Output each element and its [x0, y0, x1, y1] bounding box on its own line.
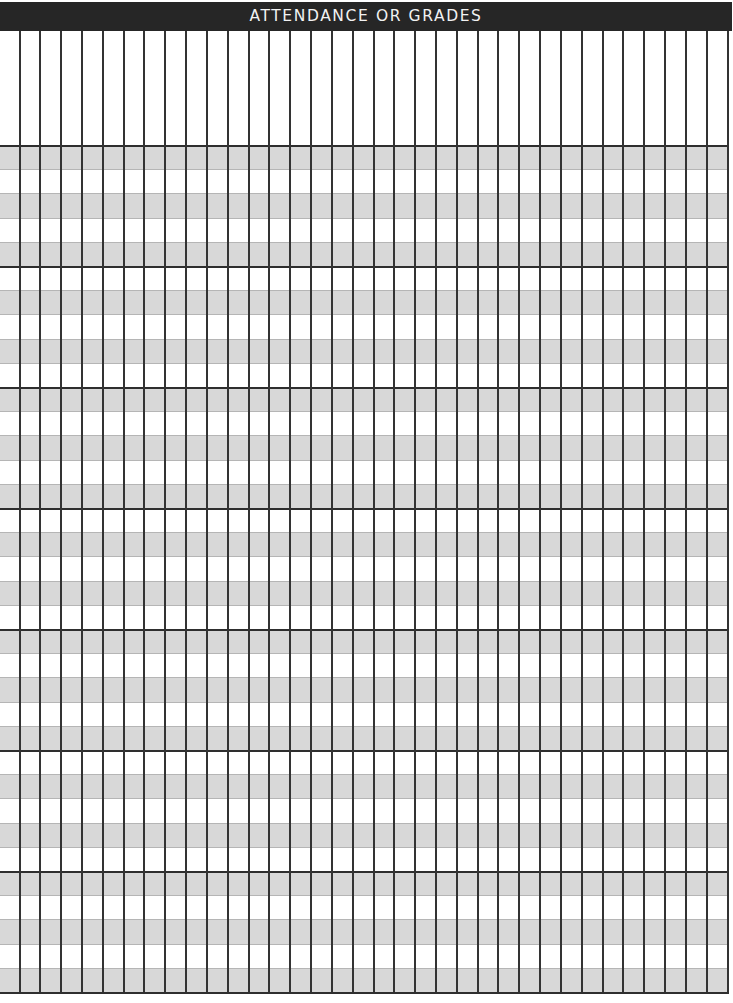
- group-divider: [0, 629, 729, 631]
- column-divider: [81, 31, 83, 992]
- grid-row: [0, 727, 729, 751]
- grid-row: [0, 775, 729, 799]
- column-divider: [164, 31, 166, 992]
- group-divider: [0, 750, 729, 752]
- grid-row: [0, 848, 729, 872]
- column-divider: [581, 31, 583, 992]
- grid-row: [0, 364, 729, 388]
- grid-row: [0, 703, 729, 727]
- grid-border: [19, 31, 21, 992]
- column-divider: [60, 31, 62, 992]
- column-divider: [352, 31, 354, 992]
- column-divider: [685, 31, 687, 992]
- column-divider: [560, 31, 562, 992]
- grid-row: [0, 654, 729, 678]
- column-divider: [123, 31, 125, 992]
- grid-row: [0, 606, 729, 630]
- column-divider: [227, 31, 229, 992]
- grid-row: [0, 436, 729, 460]
- grid-row: [0, 896, 729, 920]
- grid-row: [0, 582, 729, 606]
- grid-row: [0, 485, 729, 509]
- group-divider: [0, 871, 729, 873]
- page-title: ATTENDANCE OR GRADES: [249, 8, 482, 25]
- column-divider: [435, 31, 437, 992]
- column-divider: [102, 31, 104, 992]
- grid-row: [0, 920, 729, 944]
- column-divider: [206, 31, 208, 992]
- grid-row: [0, 969, 729, 993]
- grid-row: [0, 678, 729, 702]
- grid-row: [0, 219, 729, 243]
- grid-row: [0, 291, 729, 315]
- column-divider: [39, 31, 41, 992]
- group-divider: [0, 266, 729, 268]
- column-divider: [477, 31, 479, 992]
- grid-border: [727, 31, 729, 992]
- column-divider: [456, 31, 458, 992]
- header-bar: ATTENDANCE OR GRADES: [0, 2, 732, 31]
- grid-row: [0, 557, 729, 581]
- grid-row: [0, 315, 729, 339]
- grid-row: [0, 630, 729, 654]
- column-divider: [143, 31, 145, 992]
- grid-row: [0, 412, 729, 436]
- column-divider: [393, 31, 395, 992]
- column-divider: [664, 31, 666, 992]
- grid-row: [0, 945, 729, 969]
- column-divider: [373, 31, 375, 992]
- column-divider: [310, 31, 312, 992]
- grid-row: [0, 170, 729, 194]
- grid-row: [0, 194, 729, 218]
- column-divider: [497, 31, 499, 992]
- attendance-grid: [0, 31, 733, 993]
- column-divider: [185, 31, 187, 992]
- column-divider: [518, 31, 520, 992]
- group-divider: [0, 992, 729, 994]
- grid-row: [0, 388, 729, 412]
- column-divider: [289, 31, 291, 992]
- column-divider: [331, 31, 333, 992]
- group-divider: [0, 508, 729, 510]
- grid-row: [0, 461, 729, 485]
- column-divider: [414, 31, 416, 992]
- grid-row: [0, 267, 729, 291]
- column-divider: [268, 31, 270, 992]
- grid-row: [0, 243, 729, 267]
- grid-row: [0, 799, 729, 823]
- column-divider: [602, 31, 604, 992]
- grid-row: [0, 533, 729, 557]
- grid-row: [0, 509, 729, 533]
- column-divider: [248, 31, 250, 992]
- grid-row: [0, 824, 729, 848]
- grid-row: [0, 146, 729, 170]
- column-divider: [643, 31, 645, 992]
- column-divider: [622, 31, 624, 992]
- grid-row: [0, 751, 729, 775]
- group-divider: [0, 145, 729, 147]
- column-divider: [539, 31, 541, 992]
- group-divider: [0, 387, 729, 389]
- grid-row: [0, 340, 729, 364]
- column-divider: [706, 31, 708, 992]
- grid-row: [0, 872, 729, 896]
